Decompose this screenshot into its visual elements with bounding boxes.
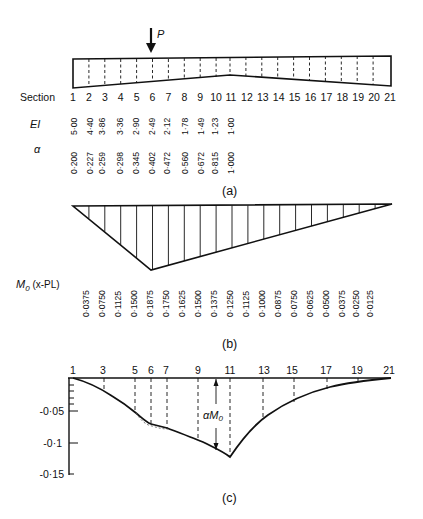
svg-text:13: 13 <box>257 91 269 103</box>
svg-text:0·1250: 0·1250 <box>225 290 235 317</box>
svg-text:0·1375: 0·1375 <box>209 290 219 317</box>
svg-text:0·1500: 0·1500 <box>193 290 203 317</box>
svg-text:1·00: 1·00 <box>226 118 236 135</box>
alpha-m0-annotation: αM0 <box>203 409 223 423</box>
svg-text:0·0250: 0·0250 <box>351 290 361 317</box>
svg-text:4·40: 4·40 <box>85 118 95 135</box>
svg-text:8: 8 <box>181 91 187 103</box>
y-tick-labels: -0·05 -0·1 -0·15 <box>39 405 64 480</box>
svg-text:21: 21 <box>383 364 395 376</box>
svg-text:20: 20 <box>368 91 380 103</box>
svg-text:0·1000: 0·1000 <box>257 290 267 317</box>
svg-text:-0·1: -0·1 <box>43 437 62 449</box>
svg-text:0·1125: 0·1125 <box>113 291 123 317</box>
svg-text:21: 21 <box>384 91 396 103</box>
svg-text:9: 9 <box>195 364 201 376</box>
svg-text:0·672: 0·672 <box>196 152 206 174</box>
svg-text:0·0500: 0·0500 <box>321 290 331 317</box>
svg-text:0·0125: 0·0125 <box>365 290 375 317</box>
svg-text:1·49: 1·49 <box>196 118 206 135</box>
svg-text:1·78: 1·78 <box>180 118 190 135</box>
alpha-values: 0·200 0·227 0·259 0·298 0·345 0·402 0·47… <box>69 152 236 174</box>
load-arrow-icon <box>146 28 156 53</box>
panel-c: -0·05 -0·1 -0·15 1 3 5 6 7 9 11 13 15 17… <box>39 364 395 505</box>
svg-text:1: 1 <box>70 364 76 376</box>
load-label: P <box>157 28 165 40</box>
svg-text:1: 1 <box>70 91 76 103</box>
m0-values: 0·0375 0·0750 0·1125 0·1500 0·1875 0·175… <box>81 290 375 317</box>
svg-text:0·0750: 0·0750 <box>97 290 107 317</box>
svg-text:5: 5 <box>134 91 140 103</box>
svg-text:7: 7 <box>165 91 171 103</box>
m0-label: M0 (x-PL) <box>16 278 60 293</box>
caption-c: (c) <box>222 491 237 505</box>
svg-text:12: 12 <box>241 91 253 103</box>
svg-text:19: 19 <box>351 364 363 376</box>
svg-text:0·0875: 0·0875 <box>273 290 283 317</box>
svg-text:2·90: 2·90 <box>131 118 141 135</box>
svg-text:0·1500: 0·1500 <box>129 290 139 317</box>
svg-text:2: 2 <box>86 91 92 103</box>
svg-text:6: 6 <box>150 91 156 103</box>
svg-text:15: 15 <box>289 91 301 103</box>
beam-analysis-figure: P Section 1 2 <box>0 0 423 519</box>
svg-text:15: 15 <box>286 364 298 376</box>
alpha-m0-curve <box>73 378 391 457</box>
moment-ordinates <box>89 204 375 269</box>
svg-text:10: 10 <box>210 91 222 103</box>
svg-text:3·86: 3·86 <box>97 118 107 135</box>
svg-text:0·0375: 0·0375 <box>337 290 347 317</box>
panel-a: P Section 1 2 <box>20 28 396 198</box>
svg-text:16: 16 <box>305 91 317 103</box>
svg-text:0·0750: 0·0750 <box>289 290 299 317</box>
svg-text:3: 3 <box>100 364 106 376</box>
svg-text:0·560: 0·560 <box>180 152 190 174</box>
svg-text:18: 18 <box>336 91 348 103</box>
svg-text:9: 9 <box>197 91 203 103</box>
ei-label: EI <box>30 118 40 130</box>
svg-text:-0·15: -0·15 <box>39 468 64 480</box>
svg-text:0·815: 0·815 <box>210 152 220 174</box>
caption-b: (b) <box>222 337 237 351</box>
svg-text:1·23: 1·23 <box>210 118 220 135</box>
svg-text:4: 4 <box>118 91 124 103</box>
caption-a: (a) <box>222 184 237 198</box>
svg-text:0·1750: 0·1750 <box>161 290 171 317</box>
y-axis-ticks <box>69 385 78 474</box>
svg-text:0·0625: 0·0625 <box>305 290 315 317</box>
svg-text:2·49: 2·49 <box>147 118 157 135</box>
svg-text:0·1125: 0·1125 <box>241 291 251 317</box>
svg-text:11: 11 <box>226 91 237 103</box>
ei-values: 5·00 4·40 3·86 3·36 2·90 2·49 2·12 1·78 … <box>69 118 236 135</box>
svg-text:5·00: 5·00 <box>69 118 79 135</box>
svg-text:0·227: 0·227 <box>85 152 95 174</box>
alpha-label: α <box>34 143 41 155</box>
svg-text:6: 6 <box>148 364 154 376</box>
svg-text:19: 19 <box>352 91 364 103</box>
svg-text:7: 7 <box>163 364 169 376</box>
panel-b: M0 (x-PL) 0·0375 0·0750 0·1125 0·1500 0·… <box>16 204 392 351</box>
svg-text:1·000: 1·000 <box>226 152 236 174</box>
svg-text:3·36: 3·36 <box>115 118 125 135</box>
svg-text:17: 17 <box>321 91 333 103</box>
svg-text:0·472: 0·472 <box>162 152 172 174</box>
svg-text:0·1875: 0·1875 <box>145 290 155 317</box>
svg-text:14: 14 <box>273 91 285 103</box>
svg-text:0·1625: 0·1625 <box>177 290 187 317</box>
svg-text:0·0375: 0·0375 <box>81 290 91 317</box>
svg-text:2·12: 2·12 <box>162 118 172 135</box>
section-numbers: 1 2 3 4 5 6 7 8 9 10 11 12 13 14 15 16 1… <box>70 91 396 103</box>
svg-text:0·345: 0·345 <box>131 152 141 174</box>
svg-text:0·259: 0·259 <box>97 152 107 174</box>
svg-text:-0·05: -0·05 <box>39 405 64 417</box>
section-label: Section <box>20 91 55 103</box>
svg-text:3: 3 <box>102 91 108 103</box>
svg-text:5: 5 <box>132 364 138 376</box>
svg-text:13: 13 <box>258 364 270 376</box>
svg-text:0·200: 0·200 <box>69 152 79 174</box>
svg-text:0·298: 0·298 <box>115 152 125 174</box>
svg-text:17: 17 <box>320 364 332 376</box>
svg-text:0·402: 0·402 <box>147 152 157 174</box>
svg-text:11: 11 <box>225 364 236 376</box>
x-tick-labels: 1 3 5 6 7 9 11 13 15 17 19 21 <box>70 364 395 376</box>
